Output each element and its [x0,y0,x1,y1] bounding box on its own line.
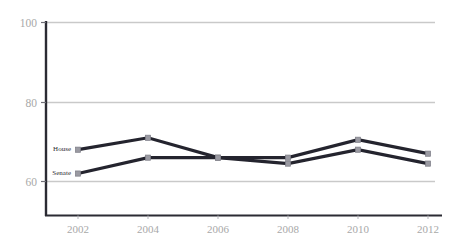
line-chart: 100 80 60 2002 2004 2006 2008 2010 2012 … [0,0,455,251]
y-tick-label-60: 60 [26,176,38,188]
data-point-marker[interactable] [355,147,360,152]
x-tick-label-2008: 2008 [277,223,300,235]
x-tick-label-2004: 2004 [137,223,160,235]
x-tick-label-2010: 2010 [347,223,370,235]
series-inline-labels: House Senate [52,145,71,177]
x-tick-label-2012: 2012 [417,223,439,235]
series-label-house: House [53,145,71,153]
x-tick-label-2006: 2006 [207,223,230,235]
data-point-marker[interactable] [425,151,430,156]
data-point-marker[interactable] [215,155,220,160]
data-point-marker[interactable] [145,155,150,160]
x-axis-tick-labels: 2002 2004 2006 2008 2010 2012 [67,223,439,235]
y-axis-tick-labels: 100 80 60 [20,17,38,188]
chart-canvas: 100 80 60 2002 2004 2006 2008 2010 2012 … [0,0,455,251]
data-point-marker[interactable] [75,171,80,176]
series-label-senate: Senate [52,169,71,177]
data-point-marker[interactable] [355,137,360,142]
data-point-marker[interactable] [285,155,290,160]
data-point-marker[interactable] [425,161,430,166]
series-lines [78,138,428,174]
x-tick-label-2002: 2002 [67,223,89,235]
series-line-senate[interactable] [78,150,428,174]
data-point-marker[interactable] [145,135,150,140]
y-tick-label-80: 80 [26,97,38,109]
y-tick-label-100: 100 [20,17,38,29]
data-point-marker[interactable] [75,147,80,152]
data-point-marker[interactable] [285,161,290,166]
